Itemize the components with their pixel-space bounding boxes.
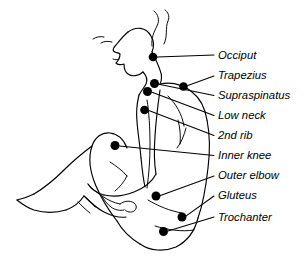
point-label-trapezius: Trapezius	[218, 69, 267, 81]
point-label-low-neck: Low neck	[218, 109, 267, 121]
tender-point-dot-trochanter[interactable]	[159, 227, 168, 236]
point-label-inner-knee: Inner knee	[218, 149, 271, 161]
point-label-gluteus: Gluteus	[218, 189, 257, 201]
tender-point-dot-occiput[interactable]	[149, 53, 158, 62]
tender-point-dot-inner-knee[interactable]	[111, 141, 120, 150]
tender-point-dot-outer-elbow[interactable]	[152, 192, 161, 201]
tender-point-dot-trapezius[interactable]	[179, 82, 188, 91]
tender-point-dot-supraspinatus[interactable]	[150, 79, 159, 88]
tender-point-dot-gluteus[interactable]	[178, 213, 187, 222]
tender-point-dot-2nd-rib[interactable]	[140, 106, 149, 115]
point-label-trochanter: Trochanter	[218, 211, 273, 223]
diagram-background	[0, 0, 307, 264]
point-label-2nd-rib: 2nd rib	[217, 129, 253, 141]
tender-point-dot-low-neck[interactable]	[143, 87, 152, 96]
point-label-outer-elbow: Outer elbow	[218, 169, 280, 181]
tender-points-diagram: Occiput Trapezius Supraspinatus Low neck…	[0, 0, 307, 264]
point-label-supraspinatus: Supraspinatus	[218, 89, 291, 101]
point-label-occiput: Occiput	[218, 49, 257, 61]
diagram-canvas: Occiput Trapezius Supraspinatus Low neck…	[0, 0, 307, 264]
